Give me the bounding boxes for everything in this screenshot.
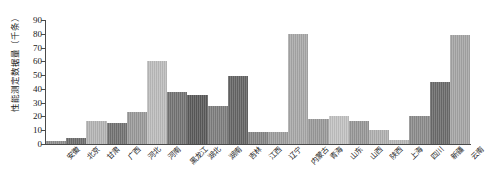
x-axis-tick-labels: 安徽北京甘肃广西河北河南黑龙江湖北湖南吉林江西辽宁内蒙古青海山东山西陕西上海四川… [46,146,470,186]
y-axis-title: 性能测定数据量（千条） [10,0,20,127]
x-axis-tick-label: 甘肃 [107,146,123,162]
bar [308,119,328,144]
y-axis-tick-label: 50 [22,71,42,80]
x-axis-line [45,144,471,145]
y-axis-tick-mark [41,61,45,62]
bar [107,123,127,144]
y-axis-tick-label: 90 [22,16,42,25]
bar [127,112,147,144]
x-axis-tick-label: 河南 [167,146,183,162]
bar [329,116,349,144]
x-axis-tick-label: 陕西 [389,146,405,162]
bar [228,76,248,144]
x-axis-tick-label: 安徽 [66,146,82,162]
bar [147,61,167,144]
y-axis-tick-labels: 0102030405060708090 [22,20,42,144]
bar [430,82,450,144]
x-axis-tick-label: 湖北 [208,146,224,162]
bar-series [46,20,470,144]
bar [369,130,389,144]
y-axis-tick-label: 0 [22,140,42,149]
bar [349,121,369,144]
x-axis-tick-label: 山东 [349,146,365,162]
x-axis-tick-label: 江西 [268,146,284,162]
y-axis-tick-mark [41,48,45,49]
y-axis-tick-mark [41,34,45,35]
x-axis-tick-label: 广西 [127,146,143,162]
bar [46,141,66,144]
bar [288,34,308,144]
x-axis-tick-label: 河北 [147,146,163,162]
y-axis-tick-label: 70 [22,43,42,52]
y-axis-tick-label: 60 [22,57,42,66]
bar [409,116,429,144]
bar [450,35,470,144]
y-axis-tick-label: 40 [22,84,42,93]
x-axis-tick-label: 新疆 [450,146,466,162]
bar [389,140,409,144]
bar [66,138,86,144]
bar [208,106,228,144]
x-axis-tick-label: 辽宁 [288,146,304,162]
y-axis-tick-mark [41,89,45,90]
y-axis-tick-mark [41,116,45,117]
x-axis-tick-label: 吉林 [248,146,264,162]
y-axis-tick-label: 80 [22,29,42,38]
bar [248,132,268,144]
x-axis-tick-label: 青海 [329,146,345,162]
y-axis-tick-label: 30 [22,98,42,107]
y-axis-tick-mark [41,144,45,145]
bar [86,121,106,144]
x-axis-tick-label: 山西 [369,146,385,162]
x-axis-tick-label: 云南 [470,146,486,162]
bar [167,92,187,144]
y-axis-tick-mark [41,75,45,76]
x-axis-tick-label: 北京 [86,146,102,162]
x-axis-tick-label: 四川 [430,146,446,162]
x-axis-tick-label: 上海 [409,146,425,162]
x-axis-tick-label: 湖南 [228,146,244,162]
y-axis-tick-mark [41,130,45,131]
y-axis-tick-mark [41,20,45,21]
y-axis-tick-label: 10 [22,126,42,135]
bar [187,95,207,144]
y-axis-tick-mark [41,103,45,104]
x-axis-tick-label: 内蒙古 [311,146,332,167]
y-axis-tick-label: 20 [22,112,42,121]
bar [268,132,288,144]
